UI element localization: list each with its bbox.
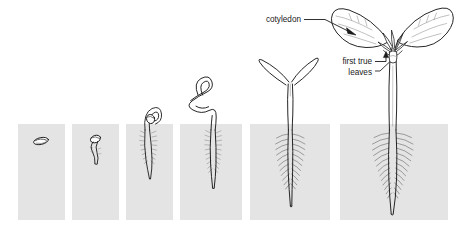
cotyledon-label: cotyledon [266, 15, 301, 24]
germination-sequence-figure: cotyledon first true leaves [0, 0, 466, 234]
first-true-leaves-label-line1: first true [342, 57, 372, 66]
soil-panel-3 [126, 124, 173, 220]
first-true-leaves-label-line2: leaves [348, 68, 372, 77]
